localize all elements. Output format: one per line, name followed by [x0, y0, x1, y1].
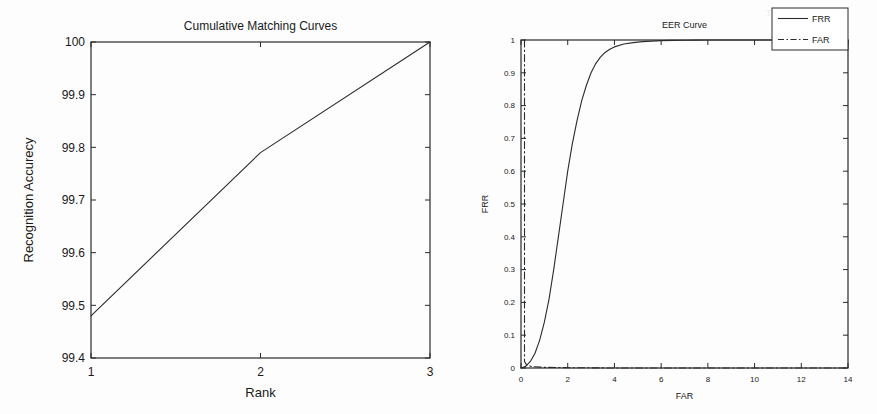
y-tick-label: 0.9: [504, 69, 516, 78]
eer-svg-ylabel: FRR: [480, 194, 490, 213]
cmc-svg-xlabel: Rank: [245, 385, 276, 400]
cmc-plot-svg: Cumulative Matching Curves12399.499.599.…: [0, 0, 440, 414]
series-FRR: [521, 40, 848, 368]
x-tick-label: 6: [659, 375, 664, 384]
y-tick-label: 100: [65, 35, 85, 49]
eer-svg-legend: FRRFAR: [772, 8, 848, 50]
y-tick-label: 0: [511, 364, 516, 373]
y-tick-label: 0.8: [504, 101, 516, 110]
y-tick-label: 0.6: [504, 167, 516, 176]
series-FAR: [525, 40, 849, 368]
x-tick-label: 2: [257, 365, 264, 379]
legend-label-FAR: FAR: [812, 35, 830, 45]
cmc-svg-title: Cumulative Matching Curves: [184, 19, 337, 33]
series-CMC: [91, 42, 430, 316]
legend-box: [772, 8, 848, 50]
cmc-svg-plot-frame: [91, 42, 430, 358]
y-tick-label: 99.6: [62, 246, 86, 260]
x-tick-label: 8: [706, 375, 711, 384]
x-tick-label: 1: [88, 365, 95, 379]
y-tick-label: 99.8: [62, 141, 86, 155]
x-tick-label: 12: [797, 375, 806, 384]
eer-svg-title: EER Curve: [662, 20, 707, 30]
y-tick-label: 0.2: [504, 298, 516, 307]
figure-page: Tuning Cumulative Matching Curves12399.4…: [0, 0, 877, 414]
eer-plot-svg: EER Curve0246810121400.10.20.30.40.50.60…: [440, 0, 877, 414]
eer-svg-plot-frame: [521, 40, 848, 368]
legend-label-FRR: FRR: [812, 14, 831, 24]
y-tick-label: 0.5: [504, 200, 516, 209]
x-tick-label: 2: [565, 375, 570, 384]
y-tick-label: 0.4: [504, 233, 516, 242]
y-tick-label: 99.9: [62, 88, 86, 102]
x-tick-label: 3: [427, 365, 434, 379]
cmc-chart: Cumulative Matching Curves12399.499.599.…: [0, 0, 440, 414]
x-tick-label: 14: [844, 375, 853, 384]
y-tick-label: 99.7: [62, 193, 86, 207]
y-tick-label: 99.4: [62, 351, 86, 365]
x-tick-label: 4: [612, 375, 617, 384]
x-tick-label: 10: [750, 375, 759, 384]
y-tick-label: 0.3: [504, 265, 516, 274]
x-tick-label: 0: [519, 375, 524, 384]
cmc-svg-ylabel: Recognition Accurecy: [21, 137, 36, 263]
y-tick-label: 99.5: [62, 299, 86, 313]
y-tick-label: 0.1: [504, 331, 516, 340]
y-tick-label: 0.7: [504, 134, 516, 143]
eer-chart: EER Curve0246810121400.10.20.30.40.50.60…: [440, 0, 877, 414]
y-tick-label: 1: [511, 36, 516, 45]
eer-svg-xlabel: FAR: [676, 391, 694, 401]
